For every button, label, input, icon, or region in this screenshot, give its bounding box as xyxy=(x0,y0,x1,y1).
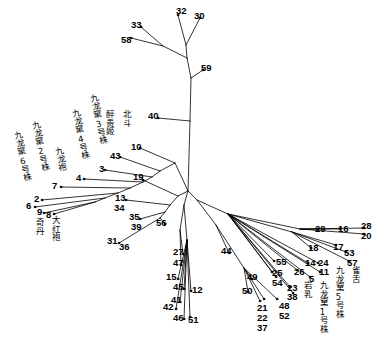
cultivar-label-yanru: 岩乳 xyxy=(302,281,311,298)
tip-label-2: 2 xyxy=(34,194,39,204)
tip-label-14: 14 xyxy=(305,258,316,268)
tip-label-38: 38 xyxy=(287,292,298,302)
tip-label-49: 49 xyxy=(247,272,258,282)
tip-label-37: 37 xyxy=(257,323,268,333)
tip-label-45: 45 xyxy=(173,282,184,292)
tip-label-54: 54 xyxy=(272,278,283,288)
cultivar-label-qidan: 奇丹 xyxy=(34,218,43,235)
tip-label-50: 50 xyxy=(242,286,253,296)
cultivar-label-dahongpao: 大红袍 xyxy=(50,216,59,242)
tip-label-40: 40 xyxy=(148,111,159,121)
tip-label-12: 12 xyxy=(192,285,203,295)
tip-label-7: 7 xyxy=(52,181,57,191)
tip-label-11: 11 xyxy=(319,267,329,277)
tip-label-6: 6 xyxy=(26,201,31,211)
tip-label-56: 56 xyxy=(156,218,167,228)
tip-label-16: 16 xyxy=(338,224,349,234)
tip-label-58: 58 xyxy=(121,35,132,45)
tip-label-43: 43 xyxy=(110,151,121,161)
cultivar-label-queshe: 雀舌 xyxy=(350,266,359,283)
tip-label-51: 51 xyxy=(188,315,199,325)
tip-label-26: 26 xyxy=(294,267,305,277)
tip-label-29: 29 xyxy=(315,224,326,234)
tip-label-18: 18 xyxy=(308,243,319,253)
cultivar-label-beidou: 北斗 xyxy=(121,110,130,127)
tip-label-9: 9 xyxy=(37,207,42,217)
tip-label-3: 3 xyxy=(99,164,104,174)
tip-label-32: 32 xyxy=(176,6,187,16)
tip-label-4: 4 xyxy=(76,173,81,183)
tip-label-30: 30 xyxy=(194,11,205,21)
tip-label-10: 10 xyxy=(131,142,142,152)
phylogenetic-tree-figure: 3230335859401043347269819133435395631362… xyxy=(0,0,384,359)
tip-label-31: 31 xyxy=(107,236,118,246)
tip-label-36: 36 xyxy=(119,242,130,252)
tip-label-52: 52 xyxy=(279,311,290,321)
tip-label-20: 20 xyxy=(361,231,372,241)
tip-label-27: 27 xyxy=(173,247,184,257)
tip-label-17: 17 xyxy=(333,242,344,252)
tip-label-46: 46 xyxy=(173,313,184,323)
tip-label-34: 34 xyxy=(114,203,125,213)
tip-label-47: 47 xyxy=(173,258,184,268)
cultivar-label-jlk5: 九龙窠5号株 xyxy=(334,266,343,318)
tip-label-59: 59 xyxy=(201,63,212,73)
tip-label-19: 19 xyxy=(133,172,144,182)
tip-label-44: 44 xyxy=(221,246,232,256)
tip-label-33: 33 xyxy=(131,20,142,30)
tip-label-42: 42 xyxy=(163,302,174,312)
tip-label-39: 39 xyxy=(131,222,142,232)
cultivar-label-jlk1: 九龙窠1号株 xyxy=(318,281,327,333)
tip-label-55: 55 xyxy=(276,257,287,267)
